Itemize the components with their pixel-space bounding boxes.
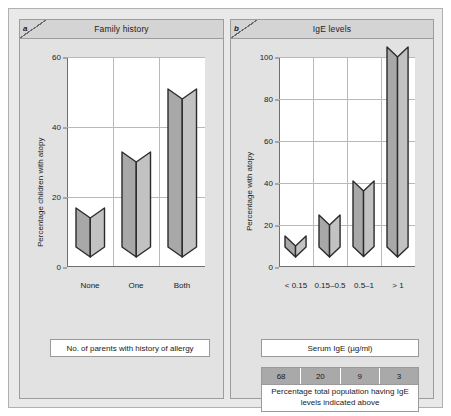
- y-tick-label: 60: [23, 53, 67, 62]
- chart-a-x-axis: [67, 266, 205, 267]
- x-tick-label: 0.5–1: [354, 281, 374, 290]
- chart-a: 0204060 NoneOneBoth: [67, 57, 205, 267]
- panel-a-body: Percentage children with atopy 0204060: [20, 39, 223, 399]
- y-tick-label: 20: [23, 193, 67, 202]
- panel-b-caption: Serum IgE (µg/ml): [261, 339, 419, 357]
- panel-b-body: Percentage with atopy: [231, 39, 433, 399]
- y-tick-label: 20: [235, 221, 279, 230]
- figure-root: a Family history Percentage children wit…: [0, 0, 451, 416]
- bar-0-15-0-5: [319, 215, 340, 267]
- table-value-row: 682093: [262, 368, 418, 384]
- panel-b-header: b IgE levels: [231, 20, 433, 39]
- bar--1: [387, 47, 408, 267]
- y-tick-label: 100: [235, 53, 279, 62]
- panel-a-title: Family history: [20, 20, 223, 38]
- gridline-vertical: [113, 57, 114, 267]
- bar-one: [122, 152, 151, 267]
- panel-a-caption: No. of parents with history of allergy: [50, 339, 210, 357]
- y-tick-label: 0: [23, 263, 67, 272]
- y-tick-label: 80: [235, 95, 279, 104]
- y-tick-label: 40: [23, 123, 67, 132]
- gridline-vertical: [381, 57, 382, 267]
- gridline-horizontal: [67, 57, 205, 58]
- gridline-vertical: [159, 57, 160, 267]
- x-tick-label: 0.15–0.5: [314, 281, 345, 290]
- table-cell: 3: [380, 368, 418, 384]
- gridline-vertical: [347, 57, 348, 267]
- table-cell: 68: [262, 368, 301, 384]
- panel-family-history: a Family history Percentage children wit…: [19, 19, 224, 399]
- panel-a-header: a Family history: [20, 20, 223, 39]
- y-tick-label: 60: [235, 137, 279, 146]
- y-tick-label: 40: [235, 179, 279, 188]
- x-tick-label: < 0.15: [285, 281, 307, 290]
- bar--0-15: [285, 236, 306, 267]
- table-cell: 20: [301, 368, 340, 384]
- panel-ige-levels: b IgE levels Percentage with atopy: [230, 19, 434, 399]
- panel-b-title: IgE levels: [231, 20, 433, 38]
- figure-frame: a Family history Percentage children wit…: [8, 8, 443, 408]
- bar-0-5-1: [353, 181, 374, 267]
- x-tick-label: None: [80, 281, 99, 290]
- x-tick-label: One: [128, 281, 143, 290]
- x-tick-label: > 1: [392, 281, 403, 290]
- population-percentage-table: 682093 Percentage total population havin…: [261, 367, 419, 412]
- chart-b-x-axis: [279, 266, 415, 267]
- chart-b: 020406080100 < 0.150.15–0.50.5–1> 1: [279, 57, 415, 267]
- table-note: Percentage total population having IgE l…: [262, 384, 418, 411]
- gridline-vertical: [313, 57, 314, 267]
- table-cell: 9: [341, 368, 380, 384]
- bar-none: [76, 208, 105, 267]
- x-tick-label: Both: [174, 281, 190, 290]
- panel-b-y-axis-label: Percentage with atopy: [245, 152, 254, 231]
- y-tick-label: 0: [235, 263, 279, 272]
- bar-both: [168, 89, 197, 267]
